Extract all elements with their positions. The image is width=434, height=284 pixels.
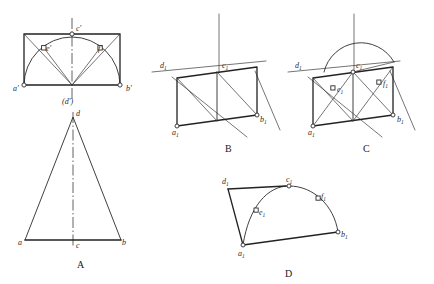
label-f1-view-d: f1 [321, 192, 326, 202]
label-c1-view-d: c1 [286, 175, 293, 185]
view-d-edge-d1-a1 [228, 189, 243, 245]
label-a1-view-d: a1 [238, 249, 245, 259]
figure-caption-a: A [77, 259, 85, 270]
front-view-radius-e [44, 48, 72, 85]
label-d1-view-c: d1 [295, 61, 302, 71]
label-b1-view-c: b1 [397, 115, 404, 125]
label-d1-view-d: d1 [222, 177, 229, 187]
top-plan-view-triangle [25, 112, 121, 248]
figure-caption-b: B [225, 143, 232, 154]
label-c: c [76, 241, 80, 250]
view-d-point-e1 [254, 208, 258, 212]
view-d-curved-arc [243, 186, 338, 245]
front-view-point-c [70, 32, 74, 36]
view-d-label-group: a1 b1 c1 d1 e1 f1 [222, 175, 348, 259]
label-a-prime: a′ [13, 84, 19, 93]
label-d-prime: (d′) [62, 97, 73, 106]
figure-caption-group: A B C D [77, 143, 370, 279]
view-c-point-f1 [377, 80, 381, 84]
figure-caption-c: C [363, 143, 370, 154]
view-c-point-c1 [351, 70, 355, 74]
label-f-prime: f′ [98, 44, 102, 53]
geometry-figure-canvas: a′ b′ c′ (d′) e′ f′ a b c d a1 b1 c1 d1 … [0, 0, 434, 284]
front-view-point-a [22, 83, 26, 87]
top-view-label-group: a b c d [18, 109, 126, 250]
front-elevation-view [22, 18, 122, 100]
view-c-horizon-line [288, 61, 400, 72]
view-d-point-a1 [241, 243, 245, 247]
view-c-diagonal-left-up [313, 72, 353, 126]
view-b-diagonal-right [217, 72, 257, 115]
label-b1-view-d: b1 [341, 230, 348, 240]
label-b1-view-b: b1 [260, 115, 267, 125]
label-c1-view-b: c1 [222, 61, 229, 71]
label-f1-view-c: f1 [383, 79, 388, 89]
label-b-prime: b′ [126, 84, 132, 93]
label-e-prime: e′ [46, 44, 52, 53]
label-a1-view-b: a1 [172, 128, 179, 138]
label-e1-view-d: e1 [259, 208, 266, 218]
label-d: d [76, 109, 81, 118]
view-c-diagonal-right-up [353, 67, 393, 121]
front-view-radius-f [72, 48, 100, 85]
view-b-point-b1 [255, 113, 259, 117]
view-b-receding-line-right [255, 71, 280, 130]
view-d-point-f1 [316, 196, 320, 200]
label-c1-view-c: c1 [356, 61, 363, 71]
view-c-receding-line-left [308, 77, 382, 137]
label-a1-view-c: a1 [308, 128, 315, 138]
view-d-edge-a1-b1 [243, 232, 338, 245]
view-b-diagonal-left [177, 78, 217, 121]
label-d1-view-b: d1 [160, 61, 167, 71]
label-b: b [122, 238, 126, 247]
front-view-point-b [118, 83, 122, 87]
label-a: a [18, 238, 22, 247]
view-c-point-e1 [331, 86, 335, 90]
view-d-point-b1 [336, 230, 340, 234]
view-c-point-b1 [391, 113, 395, 117]
view-b-receding-line-left [172, 77, 247, 137]
axonometric-view-c [288, 14, 415, 137]
label-c-prime: c′ [76, 24, 82, 33]
view-b-horizon-line [152, 61, 266, 72]
figure-caption-d: D [285, 268, 292, 279]
